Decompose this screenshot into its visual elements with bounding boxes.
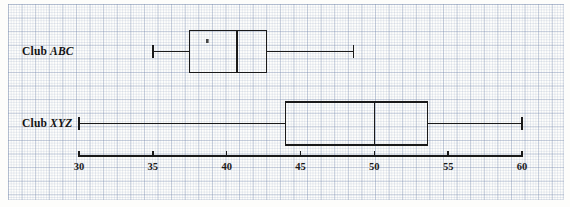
box-plot-abc: [153, 31, 354, 73]
box-rect: [286, 102, 428, 145]
x-axis: 30354045505560: [74, 151, 528, 172]
paper-speck: [206, 39, 209, 43]
axis-tick-label: 30: [74, 161, 85, 172]
axis-tick-label: 40: [221, 161, 232, 172]
axis-tick-label: 60: [517, 161, 528, 172]
box-plot-svg: 30354045505560: [0, 0, 570, 207]
axis-tick-label: 55: [443, 161, 454, 172]
box-rect: [190, 31, 267, 73]
box-plot-xyz: [79, 102, 522, 145]
axis-tick-label: 35: [148, 161, 159, 172]
box-plot-figure: ClubABC ClubXYZ 30354045505560: [0, 0, 570, 207]
axis-tick-label: 50: [369, 161, 380, 172]
axis-tick-label: 45: [295, 161, 306, 172]
